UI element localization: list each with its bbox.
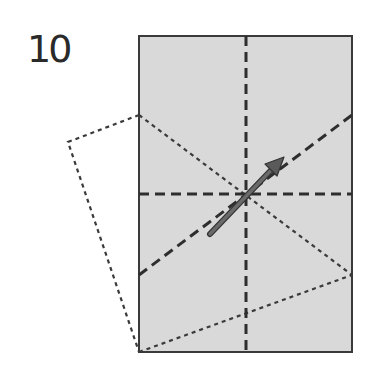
flap-outline — [68, 115, 139, 352]
origami-fold-diagram — [0, 0, 374, 390]
